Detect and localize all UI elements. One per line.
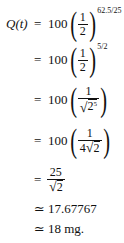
relation-symbol: = [34,133,41,149]
fraction: 1 2 [78,47,88,74]
fraction: 25 √2 [47,166,65,194]
left-paren: ( [70,83,77,117]
radicand: 2 [94,141,100,154]
relation-symbol: = [34,92,41,108]
radicand: 25 [88,99,98,114]
equation-step-3: = 100 ( 1 √ 25 ) [0,90,124,110]
radical-icon: √ [86,141,94,154]
equation-step-5: = 25 √2 [0,170,124,190]
numerator: 1 [85,127,95,140]
relation-symbol: ≃ [34,201,45,217]
coefficient: 100 [48,92,68,108]
square-root: √2 [49,180,63,193]
coefficient: 100 [48,16,68,32]
coefficient: 100 [48,133,68,149]
left-paren: ( [70,124,77,158]
denominator: 2 [78,24,88,38]
right-paren: ) [89,7,96,41]
equation-lhs: Q(t) [6,16,28,32]
expression: 100 ( 1 2 ) 5/2 [48,43,107,77]
value: 18 mg. [48,221,84,237]
left-paren: ( [70,7,77,41]
radicand-base: 2 [88,99,94,113]
equation-step-2: = 100 ( 1 2 ) 5/2 [0,50,124,70]
equation-step-6: ≃ 17.67767 [0,199,124,219]
exponent: 62.5/25 [97,6,121,15]
denominator: √2 [47,179,65,194]
fraction: 1 4√2 [78,127,102,155]
radicand-exponent: 5 [94,100,98,108]
expression: 100 ( 1 2 ) 62.5/25 [48,7,121,41]
relation-symbol: = [34,16,41,32]
expression: 25 √2 [48,166,64,194]
equation-step-1: Q(t) = 100 ( 1 2 ) 62.5/25 [0,14,124,34]
equation-step-4: = 100 ( 1 4√2 ) [0,131,124,151]
denominator: 4√2 [78,140,102,155]
denominator: √ 25 [78,98,99,115]
right-paren: ) [89,43,96,77]
equation-step-7: ≃ 18 mg. [0,219,124,239]
fraction: 1 2 [78,11,88,38]
right-paren: ) [100,83,107,117]
value: 17.67767 [48,201,97,217]
relation-symbol: = [34,52,41,68]
square-root: √2 [86,141,100,154]
expression: 100 ( 1 4√2 ) [48,124,112,158]
relation-symbol: = [34,172,41,188]
exponent: 5/2 [97,42,107,51]
radical-icon: √ [49,180,57,193]
right-paren: ) [103,124,110,158]
numerator: 1 [78,11,88,24]
square-root: √ 25 [80,99,97,114]
radical-icon: √ [80,101,88,114]
coefficient: 100 [48,52,68,68]
left-paren: ( [70,43,77,77]
numerator: 1 [78,47,88,60]
numerator: 25 [48,166,64,179]
relation-symbol: ≃ [34,221,45,237]
numerator: 1 [83,85,93,98]
fraction: 1 √ 25 [78,85,99,115]
expression: 100 ( 1 √ 25 ) [48,83,109,117]
denominator: 2 [78,60,88,74]
radicand: 2 [57,180,63,193]
